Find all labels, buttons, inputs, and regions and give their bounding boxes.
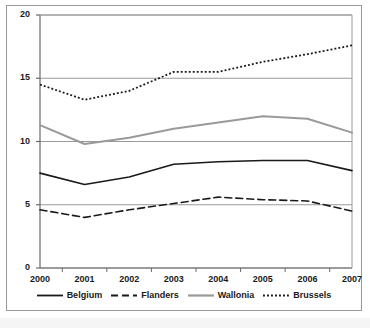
x-tick-label-2001: 2001 — [68, 274, 102, 284]
series-line-belgium — [40, 160, 352, 184]
y-tick-label-20: 20 — [6, 9, 30, 19]
legend-label-brussels: Brussels — [293, 290, 331, 300]
tickmarks-group — [36, 15, 330, 272]
legend-item-flanders[interactable]: Flanders — [111, 290, 179, 300]
y-tick-label-10: 10 — [6, 136, 30, 146]
x-tick-label-2007: 2007 — [335, 274, 369, 284]
y-tick-label-15: 15 — [6, 72, 30, 82]
series-line-wallonia — [40, 116, 352, 144]
x-tick-label-2003: 2003 — [157, 274, 191, 284]
x-tick-label-2005: 2005 — [246, 274, 280, 284]
x-tick-label-2000: 2000 — [23, 274, 57, 284]
legend-label-wallonia: Wallonia — [218, 290, 255, 300]
x-tick-label-2002: 2002 — [112, 274, 146, 284]
legend-swatch-belgium-icon — [37, 291, 63, 300]
legend-item-brussels[interactable]: Brussels — [263, 290, 331, 300]
legend-swatch-brussels-icon — [263, 291, 289, 300]
legend-label-belgium: Belgium — [67, 290, 103, 300]
legend-item-wallonia[interactable]: Wallonia — [188, 290, 255, 300]
x-tick-label-2004: 2004 — [201, 274, 235, 284]
legend-label-flanders: Flanders — [141, 290, 179, 300]
chart-legend: BelgiumFlandersWalloniaBrussels — [6, 290, 362, 300]
page-edge-artifact — [0, 318, 370, 328]
chart-figure: 05101520 2000200120022003200420052006200… — [0, 0, 370, 328]
gridlines-group — [40, 15, 352, 268]
y-tick-label-0: 0 — [6, 262, 30, 272]
x-tick-label-2006: 2006 — [290, 274, 324, 284]
series-line-flanders — [40, 197, 352, 217]
legend-swatch-wallonia-icon — [188, 291, 214, 300]
series-lines-group — [40, 45, 352, 217]
legend-item-belgium[interactable]: Belgium — [37, 290, 103, 300]
series-line-brussels — [40, 45, 352, 99]
y-tick-label-5: 5 — [6, 199, 30, 209]
legend-swatch-flanders-icon — [111, 291, 137, 300]
